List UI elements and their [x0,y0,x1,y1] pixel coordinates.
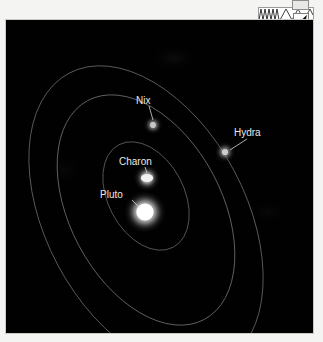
label-charon: Charon [119,156,152,167]
body-nix [143,115,163,135]
page-surface: Nix Hydra Charon Pluto [0,0,323,342]
label-nix: Nix [136,95,150,106]
pluto-system-image: Nix Hydra Charon Pluto [6,20,313,333]
label-hydra: Hydra [234,127,261,138]
pluto-system-diagram: Nix Hydra Charon Pluto [6,20,313,333]
strip-badge[interactable] [292,0,309,10]
body-charon [133,164,161,192]
background-haze [148,44,200,72]
label-pluto: Pluto [100,189,123,200]
body-pluto [123,190,167,234]
body-hydra [214,141,236,163]
background-haze [42,154,86,186]
background-haze [248,200,288,224]
